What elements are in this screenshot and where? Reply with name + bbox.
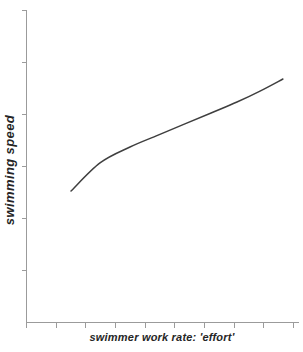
swim-speed-effort-chart: swimming speed swimmer work rate: 'effor…	[0, 0, 303, 352]
speed-effort-curve	[71, 79, 283, 191]
plot-area	[0, 0, 303, 352]
tick-marks	[22, 11, 294, 328]
axes	[26, 10, 299, 323]
x-axis-label: swimmer work rate: 'effort'	[90, 331, 235, 343]
y-axis-label: swimming speed	[2, 115, 17, 225]
